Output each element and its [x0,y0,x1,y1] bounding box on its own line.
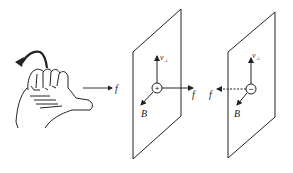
hand-force-label: f [115,83,119,94]
panel-negative: v⊥ − B f [209,12,275,158]
panel-positive: v⊥ + B f [133,9,196,159]
field-arrow-positive [141,92,153,105]
positive-charge-symbol: + [155,84,160,93]
field-arrow-negative [237,93,247,105]
lorentz-force-diagram: f v⊥ + B f v⊥ − B f [0,0,293,173]
field-label-negative: B [234,108,240,119]
velocity-label-positive: v⊥ [160,53,168,63]
negative-charge-symbol: − [248,84,253,94]
velocity-label-negative: v⊥ [252,51,260,61]
left-hand-icon [15,52,92,128]
force-label-negative: f [209,89,213,100]
force-label-positive: f [192,89,196,100]
field-label-positive: B [141,108,147,119]
